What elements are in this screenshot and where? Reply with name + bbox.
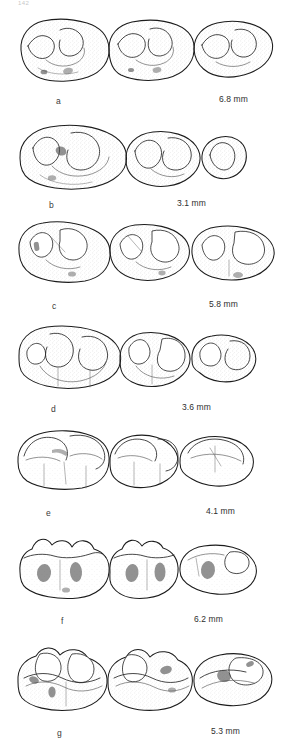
- row-letter-d: d: [51, 404, 56, 414]
- row-scale-e: 4.1 mm: [206, 506, 235, 516]
- row-letter-f: f: [61, 616, 63, 626]
- row-letter-g: g: [57, 728, 62, 738]
- row-scale-a: 6.8 mm: [219, 94, 248, 104]
- tooth-row-illustration-f: [16, 528, 268, 610]
- figure-row-g: g 5.3 mm: [0, 636, 293, 740]
- page-header: 142: [18, 0, 29, 6]
- row-scale-g: 5.3 mm: [211, 726, 240, 736]
- row-letter-e: e: [46, 508, 51, 518]
- figure-row-b: b 3.1 mm: [0, 118, 293, 210]
- figure-row-f: f 6.2 mm: [0, 528, 293, 628]
- row-scale-c: 5.8 mm: [209, 299, 238, 309]
- tooth-row-illustration-a: [16, 8, 278, 92]
- figure-row-c: c 5.8 mm: [0, 212, 293, 312]
- figure-row-e: e 4.1 mm: [0, 422, 293, 520]
- row-scale-d: 3.6 mm: [182, 402, 211, 412]
- figure-row-d: d 3.6 mm: [0, 318, 293, 416]
- tooth-row-illustration-d: [16, 318, 256, 396]
- tooth-row-illustration-g: [14, 636, 276, 722]
- tooth-row-illustration-b: [16, 118, 246, 194]
- figure-plate: 142: [0, 0, 293, 742]
- row-scale-b: 3.1 mm: [177, 198, 206, 208]
- tooth-row-illustration-c: [16, 212, 278, 292]
- row-letter-b: b: [49, 200, 54, 210]
- row-letter-a: a: [56, 96, 61, 106]
- figure-row-a: a 6.8 mm: [0, 8, 293, 108]
- row-letter-c: c: [52, 301, 56, 311]
- row-scale-f: 6.2 mm: [194, 614, 223, 624]
- tooth-row-illustration-e: [14, 422, 270, 502]
